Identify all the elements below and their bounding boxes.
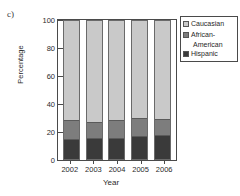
- legend-label: Hispanic: [191, 50, 218, 59]
- x-tick: [70, 160, 71, 164]
- y-tick-label: 40: [47, 100, 55, 109]
- legend-item[interactable]: Hispanic: [183, 50, 234, 59]
- legend-item[interactable]: African-: [183, 31, 234, 40]
- bar-segment: [155, 21, 170, 120]
- stacked-bar: [63, 20, 80, 160]
- x-tick-label: 2004: [109, 165, 126, 174]
- stacked-bar: [154, 20, 171, 160]
- legend: CaucasianAfrican-AmericanHispanic: [180, 16, 238, 62]
- bar-segment: [87, 139, 102, 159]
- bar-segment: [64, 21, 79, 121]
- bar-segment: [132, 21, 147, 119]
- legend-item[interactable]: Caucasian: [183, 20, 234, 29]
- x-tick: [117, 160, 118, 164]
- y-tick: 0: [58, 160, 63, 161]
- legend-swatch-icon: [183, 32, 189, 38]
- x-tick-label: 2003: [85, 165, 102, 174]
- bar-segment: [155, 136, 170, 159]
- legend-swatch-icon: [183, 21, 189, 27]
- x-tick-label: 2002: [61, 165, 78, 174]
- bar-segment: [87, 123, 102, 139]
- bar-segment: [132, 137, 147, 159]
- figure-panel: c) Percentage Year 020406080100 20022003…: [0, 0, 240, 196]
- stacked-bar: [108, 20, 125, 160]
- legend-label: Caucasian: [191, 20, 224, 29]
- y-tick-label: 0: [51, 156, 55, 165]
- legend-label: African-: [191, 31, 215, 40]
- x-tick-label: 2005: [132, 165, 149, 174]
- y-tick-label: 20: [47, 128, 55, 137]
- x-tick: [164, 160, 165, 164]
- stacked-bar: [131, 20, 148, 160]
- y-tick-label: 60: [47, 72, 55, 81]
- bar-segment: [87, 21, 102, 123]
- panel-label: c): [7, 9, 14, 19]
- bar-group: [58, 20, 176, 160]
- legend-swatch-icon: [183, 51, 189, 57]
- y-axis-label: Percentage: [16, 25, 25, 105]
- bar-segment: [109, 21, 124, 121]
- x-tick-label: 2006: [156, 165, 173, 174]
- bar-segment: [64, 121, 79, 140]
- bar-segment: [109, 139, 124, 159]
- bar-segment: [155, 120, 170, 136]
- x-tick: [93, 160, 94, 164]
- bar-segment: [132, 119, 147, 138]
- legend-label-continuation: American: [183, 41, 234, 50]
- y-tick-label: 100: [42, 16, 55, 25]
- x-tick: [141, 160, 142, 164]
- bar-segment: [109, 121, 124, 138]
- plot-area: 020406080100 20022003200420052006: [57, 19, 177, 161]
- x-axis-label: Year: [44, 178, 178, 187]
- stacked-bar: [86, 20, 103, 160]
- bar-segment: [64, 140, 79, 159]
- y-tick-label: 80: [47, 44, 55, 53]
